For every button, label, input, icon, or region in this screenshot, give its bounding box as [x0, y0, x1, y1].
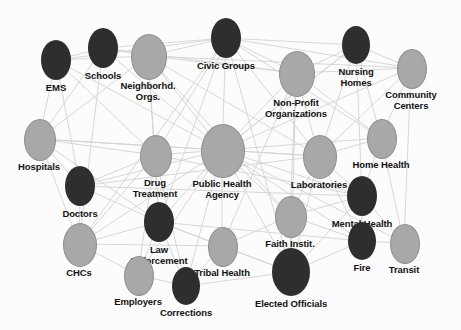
- node-layer: EMSSchoolsNeighborhd. Orgs.Civic GroupsN…: [0, 0, 461, 330]
- network-node-tribal[interactable]: [208, 227, 238, 267]
- network-node-nonprofit[interactable]: [279, 51, 315, 97]
- network-node-civic[interactable]: [211, 18, 241, 58]
- network-node-chcs[interactable]: [63, 223, 97, 267]
- network-node-label-chcs: CHCs: [46, 267, 112, 278]
- network-node-corrections[interactable]: [172, 267, 200, 305]
- network-node-label-doctors: Doctors: [45, 208, 115, 219]
- network-node-transit[interactable]: [390, 224, 420, 264]
- network-node-pha[interactable]: [201, 124, 245, 178]
- network-node-label-civic: Civic Groups: [186, 60, 266, 71]
- network-node-label-schools: Schools: [68, 70, 138, 81]
- network-node-label-fire: Fire: [334, 262, 390, 273]
- network-diagram-canvas: EMSSchoolsNeighborhd. Orgs.Civic GroupsN…: [0, 0, 461, 330]
- network-node-hospitals[interactable]: [24, 119, 56, 161]
- network-node-label-pha: Public Health Agency: [174, 178, 270, 200]
- network-node-label-community: Community Centers: [371, 89, 451, 111]
- network-node-fire[interactable]: [348, 222, 376, 260]
- network-node-label-corrections: Corrections: [146, 307, 226, 318]
- network-node-mental[interactable]: [347, 176, 377, 216]
- network-node-elected[interactable]: [272, 248, 310, 296]
- network-node-law[interactable]: [144, 202, 174, 242]
- network-node-neighborhood[interactable]: [131, 34, 167, 80]
- network-node-label-transit: Transit: [373, 264, 435, 275]
- network-node-drugtx[interactable]: [140, 135, 172, 177]
- network-node-label-nonprofit: Non-Profit Organizations: [251, 97, 341, 119]
- network-node-label-elected: Elected Officials: [241, 298, 341, 309]
- network-node-label-drugtx: Drug Treatment: [115, 177, 195, 199]
- network-node-label-hospitals: Hospitals: [1, 161, 77, 172]
- network-node-label-homehealth: Home Health: [339, 159, 423, 170]
- network-node-labs[interactable]: [303, 135, 337, 179]
- network-node-label-ems: EMS: [21, 82, 91, 93]
- network-node-community[interactable]: [397, 49, 427, 89]
- network-node-label-neighborhood: Neighborhd. Orgs.: [108, 80, 188, 102]
- network-node-label-nursing: Nursing Homes: [321, 66, 391, 88]
- network-node-faith[interactable]: [275, 196, 307, 238]
- network-node-doctors[interactable]: [65, 166, 95, 206]
- network-node-homehealth[interactable]: [367, 119, 397, 159]
- network-node-label-employers: Employers: [99, 296, 177, 307]
- network-node-ems[interactable]: [41, 40, 71, 80]
- network-node-nursing[interactable]: [342, 26, 370, 64]
- network-node-schools[interactable]: [88, 28, 118, 68]
- network-node-employers[interactable]: [124, 256, 154, 296]
